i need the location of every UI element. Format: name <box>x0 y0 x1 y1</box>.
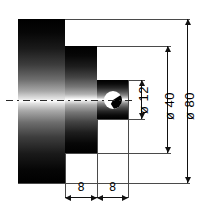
dimension-label-inner-step-length: 8 <box>97 180 128 194</box>
dimension-label-outer-diameter: ø 80 <box>182 92 197 120</box>
witness-line-right-step <box>128 80 129 198</box>
arrowhead-left-icon <box>97 195 103 201</box>
dimension-line-inner-step-length <box>97 197 128 198</box>
dimension-label-middle-step-diameter: ø 40 <box>162 92 177 120</box>
extension-line-bottom-inner <box>97 119 145 120</box>
technical-drawing-canvas: ø 12 ø 40 ø 80 8 8 <box>0 0 205 214</box>
arrowhead-down-icon <box>185 177 191 183</box>
arrowhead-down-icon <box>165 147 171 153</box>
centre-axis-line <box>6 100 136 101</box>
dimension-label-bore-diameter: ø 12 <box>136 86 151 114</box>
arrowhead-up-icon <box>165 46 171 52</box>
extension-line-bottom-middle <box>65 153 171 154</box>
arrowhead-left-icon <box>65 195 71 201</box>
arrowhead-right-icon <box>122 195 128 201</box>
outer-cylinder-body <box>18 19 65 183</box>
arrowhead-up-icon <box>185 19 191 25</box>
dimension-label-middle-step-length: 8 <box>65 180 97 194</box>
dimension-line-middle-step-length <box>65 197 97 198</box>
